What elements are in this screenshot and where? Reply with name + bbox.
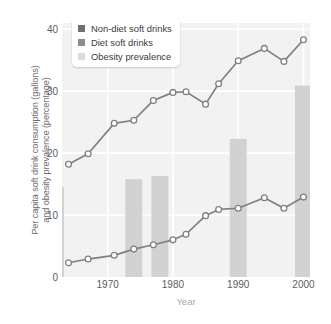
data-point-marker [203,101,209,107]
data-point-marker [216,207,222,213]
x-tick-label: 1970 [88,279,128,290]
chart-legend: Non-diet soft drinksDiet soft drinksObes… [72,17,180,67]
legend-item[interactable]: Obesity prevalence [78,49,172,63]
data-point-marker [85,256,91,262]
data-point-marker [150,98,156,104]
bar-obesity-prevalence [295,86,310,277]
data-point-marker [301,37,307,43]
legend-swatch-icon [78,25,85,32]
data-point-marker [170,237,176,243]
y-tick-label: 20 [34,148,58,159]
bar-obesity-prevalence [151,176,168,277]
y-tick-label: 10 [34,210,58,221]
x-tick-label: 1990 [218,279,258,290]
x-tick-label: 1980 [153,279,193,290]
legend-item-label: Non-diet soft drinks [91,23,172,34]
data-point-marker [66,260,72,266]
legend-item[interactable]: Diet soft drinks [78,35,172,49]
line-path [69,197,304,263]
y-axis-ticks: 010203040 [32,23,58,277]
data-point-marker [131,117,137,123]
x-axis-ticks: 1970198019902000 [62,279,310,295]
data-point-marker [170,89,176,95]
bar-obesity-prevalence [125,179,142,277]
legend-item-label: Obesity prevalence [91,51,171,62]
data-point-marker [216,81,222,87]
bar-obesity-prevalence [62,187,64,277]
y-tick-label: 0 [34,272,58,283]
data-point-marker [301,194,307,200]
data-point-marker [235,58,241,64]
data-point-marker [131,246,137,252]
data-point-marker [150,242,156,248]
data-point-marker [85,151,91,157]
data-point-marker [66,161,72,167]
data-point-marker [235,205,241,211]
x-axis-title: Year [62,296,310,307]
data-point-marker [111,120,117,126]
y-tick-label: 30 [34,86,58,97]
data-point-marker [261,195,267,201]
x-tick-label: 2000 [283,279,323,290]
legend-swatch-icon [78,39,85,46]
data-point-marker [281,205,287,211]
legend-item-label: Diet soft drinks [91,37,153,48]
data-point-marker [183,231,189,237]
data-point-marker [203,213,209,219]
data-point-marker [183,89,189,95]
chart-figure: Per capita soft drink consumption (gallo… [0,0,331,324]
data-point-marker [261,46,267,52]
legend-swatch-icon [78,53,85,60]
legend-item[interactable]: Non-diet soft drinks [78,21,172,35]
data-point-marker [111,252,117,258]
y-tick-label: 40 [34,24,58,35]
data-point-marker [281,59,287,65]
